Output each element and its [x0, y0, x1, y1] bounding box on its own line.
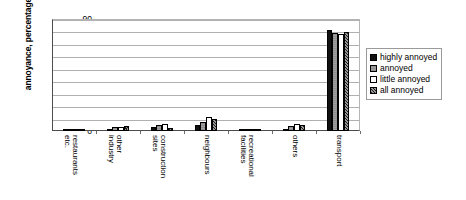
x-axis-label: restaurants etc.: [65, 135, 79, 197]
legend-swatch-icon: [370, 87, 377, 94]
x-axis-label: neighbours: [197, 135, 211, 197]
x-tick-mark: [228, 131, 229, 134]
x-axis-label: transport: [329, 135, 343, 197]
bar: [344, 32, 350, 131]
x-tick-mark: [184, 131, 185, 134]
bar-chart: annoyance, percentage 908070605040302010…: [0, 0, 466, 200]
x-axis-label: construction sites: [153, 135, 167, 197]
x-tick-mark: [272, 131, 273, 134]
bars-layer: [52, 19, 360, 131]
legend-item[interactable]: annoyed: [370, 63, 437, 74]
chart-legend: highly annoyedannoyedlittle annoyedall a…: [366, 48, 442, 100]
x-tick-mark: [140, 131, 141, 134]
y-axis-title: annoyance, percentage: [23, 0, 33, 114]
x-tick-mark: [360, 131, 361, 134]
legend-item[interactable]: all annoyed: [370, 85, 437, 96]
bar-group: [327, 19, 349, 131]
x-tick-mark: [316, 131, 317, 134]
x-axis-label: other industry: [109, 135, 123, 197]
bar-group: [63, 19, 85, 131]
legend-label: highly annoyed: [380, 53, 437, 62]
x-axis-category-labels: restaurants etc.other industryconstructi…: [52, 135, 360, 199]
x-tick-mark: [96, 131, 97, 134]
legend-item[interactable]: little annoyed: [370, 74, 437, 85]
bar-group: [283, 19, 305, 131]
x-axis-label: recreational facilities: [241, 135, 255, 197]
legend-label: all annoyed: [380, 86, 423, 95]
legend-swatch-icon: [370, 65, 377, 72]
legend-swatch-icon: [370, 76, 377, 83]
bar-group: [239, 19, 261, 131]
bar-group: [151, 19, 173, 131]
x-axis-label: others: [285, 135, 299, 197]
legend-label: annoyed: [380, 64, 413, 73]
legend-item[interactable]: highly annoyed: [370, 52, 437, 63]
bar-group: [107, 19, 129, 131]
bar-group: [195, 19, 217, 131]
legend-label: little annoyed: [380, 75, 430, 84]
legend-swatch-icon: [370, 54, 377, 61]
bar: [212, 119, 218, 131]
